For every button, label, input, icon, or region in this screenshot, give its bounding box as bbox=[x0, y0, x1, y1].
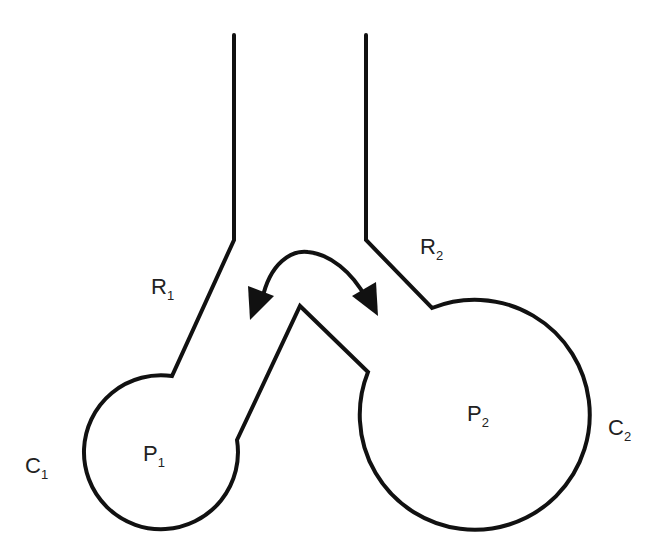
resistance-2-label: R2 bbox=[420, 234, 443, 263]
exchange-double-arrow-icon bbox=[248, 252, 378, 320]
resistance-1-label: R1 bbox=[151, 274, 174, 303]
compliance-1-label: C1 bbox=[25, 453, 48, 482]
compliance-2-label: C2 bbox=[608, 415, 631, 444]
pressure-2-label: P2 bbox=[467, 401, 489, 430]
lung-model-diagram: R1 R2 P1 P2 C1 C2 bbox=[0, 0, 658, 556]
pressure-1-label: P1 bbox=[143, 441, 165, 470]
